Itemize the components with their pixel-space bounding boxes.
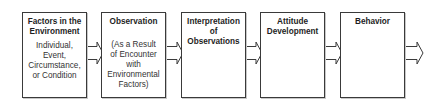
step-description-line: Factors) <box>103 80 164 90</box>
step-description-line: Event, <box>24 51 85 61</box>
step-box-1: Factors in theEnvironmentIndividual,Even… <box>22 12 87 98</box>
step-title-line: Behavior <box>342 17 403 27</box>
step-title-line: Attitude <box>262 17 323 27</box>
step-title: AttitudeDevelopment <box>261 17 324 37</box>
step-title: InterpretationofObservations <box>182 17 245 47</box>
step-description: Individual,Event,Circumstance,or Conditi… <box>23 41 86 81</box>
step-title: Observation <box>102 17 165 27</box>
step-box-2: Observation(As a Resultof EncounterwithE… <box>101 12 166 98</box>
step-title-line: Environment <box>24 27 85 37</box>
step-box-4: AttitudeDevelopment <box>260 12 325 98</box>
step-box-5: Behavior <box>340 12 405 98</box>
step-description-line: Environmental <box>103 70 164 80</box>
step-title: Behavior <box>341 17 404 27</box>
step-title-line: Observations <box>183 37 244 47</box>
step-title-line: Development <box>262 27 323 37</box>
step-description-line: with <box>103 60 164 70</box>
step-title-line: of <box>183 27 244 37</box>
step-description-line: Individual, <box>24 41 85 51</box>
step-description-line: Circumstance, <box>24 61 85 71</box>
step-title-line: Factors in the <box>24 17 85 27</box>
step-description-line: of Encounter <box>103 50 164 60</box>
arrow-5-out <box>405 42 423 64</box>
step-title-line: Observation <box>103 17 164 27</box>
step-description-line: or Condition <box>24 71 85 81</box>
step-box-3: InterpretationofObservations <box>181 12 246 98</box>
step-description: (As a Resultof EncounterwithEnvironmenta… <box>102 40 165 90</box>
step-description-line: (As a Result <box>103 40 164 50</box>
step-title: Factors in theEnvironment <box>23 17 86 37</box>
step-title-line: Interpretation <box>183 17 244 27</box>
